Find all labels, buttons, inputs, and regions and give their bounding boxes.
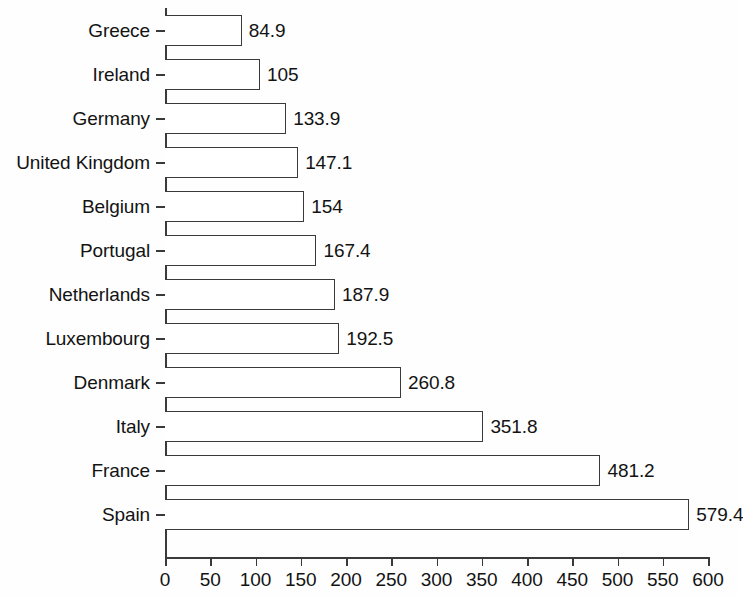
x-axis-tick bbox=[618, 557, 620, 566]
x-axis-tick-label: 150 bbox=[285, 570, 316, 589]
y-axis-tick bbox=[156, 250, 165, 252]
category-axis-labels: GreeceIrelandGermanyUnited KingdomBelgiu… bbox=[0, 0, 150, 598]
x-axis-tick bbox=[572, 557, 574, 566]
category-label: Denmark bbox=[74, 373, 150, 392]
category-label: Luxembourg bbox=[45, 329, 150, 348]
category-label: Greece bbox=[88, 21, 150, 40]
bar-value-label: 147.1 bbox=[305, 153, 352, 172]
y-axis-tick bbox=[156, 162, 165, 164]
bar-value-label: 481.2 bbox=[607, 461, 654, 480]
y-axis-tick bbox=[156, 206, 165, 208]
x-axis-tick-label: 300 bbox=[421, 570, 452, 589]
x-axis-tick bbox=[708, 557, 710, 566]
bar bbox=[165, 59, 260, 90]
x-axis-tick bbox=[437, 557, 439, 566]
bar bbox=[165, 411, 483, 442]
bar-value-label: 167.4 bbox=[323, 241, 370, 260]
x-axis-tick-label: 250 bbox=[376, 570, 407, 589]
category-label: Spain bbox=[102, 505, 150, 524]
x-axis-tick-label: 350 bbox=[466, 570, 497, 589]
bar bbox=[165, 15, 242, 46]
y-axis-tick bbox=[156, 382, 165, 384]
category-label: Netherlands bbox=[49, 285, 150, 304]
bar bbox=[165, 323, 339, 354]
x-axis-tick-label: 100 bbox=[240, 570, 271, 589]
x-axis-tick bbox=[256, 557, 258, 566]
bar-value-label: 133.9 bbox=[293, 109, 340, 128]
y-axis-tick bbox=[156, 294, 165, 296]
x-axis-tick-label: 500 bbox=[602, 570, 633, 589]
bar bbox=[165, 367, 401, 398]
x-axis-tick-label: 450 bbox=[557, 570, 588, 589]
x-axis-tick-label: 550 bbox=[647, 570, 678, 589]
y-axis-tick bbox=[156, 118, 165, 120]
y-axis-tick bbox=[156, 74, 165, 76]
bar bbox=[165, 499, 689, 530]
x-axis-tick bbox=[210, 557, 212, 566]
x-axis-tick bbox=[391, 557, 393, 566]
category-label: Belgium bbox=[82, 197, 150, 216]
bar bbox=[165, 103, 286, 134]
x-axis-tick-label: 400 bbox=[511, 570, 542, 589]
bar-value-label: 579.4 bbox=[696, 505, 743, 524]
bar-value-label: 192.5 bbox=[346, 329, 393, 348]
bar bbox=[165, 235, 316, 266]
plot-area: 84.9105133.9147.1154167.4187.9192.5260.8… bbox=[165, 0, 738, 598]
y-axis-tick bbox=[156, 30, 165, 32]
x-axis-tick-label: 600 bbox=[692, 570, 723, 589]
bar-value-label: 351.8 bbox=[490, 417, 537, 436]
bar bbox=[165, 279, 335, 310]
category-label: Portugal bbox=[80, 241, 150, 260]
category-label: Germany bbox=[73, 109, 150, 128]
y-axis-tick bbox=[156, 514, 165, 516]
x-axis-tick bbox=[663, 557, 665, 566]
bar bbox=[165, 147, 298, 178]
bar bbox=[165, 191, 304, 222]
y-axis-tick bbox=[156, 426, 165, 428]
y-axis-tick bbox=[156, 470, 165, 472]
category-label: France bbox=[91, 461, 150, 480]
x-axis-tick-label: 200 bbox=[330, 570, 361, 589]
x-axis-tick bbox=[482, 557, 484, 566]
bar-value-label: 105 bbox=[267, 65, 298, 84]
x-axis-tick bbox=[301, 557, 303, 566]
category-label: United Kingdom bbox=[16, 153, 150, 172]
y-axis-tick bbox=[156, 338, 165, 340]
x-axis-tick-label: 50 bbox=[200, 570, 221, 589]
x-axis-tick bbox=[346, 557, 348, 566]
bar-value-label: 154 bbox=[311, 197, 342, 216]
x-axis-tick bbox=[527, 557, 529, 566]
bar-value-label: 260.8 bbox=[408, 373, 455, 392]
x-axis-tick bbox=[165, 557, 167, 566]
bar bbox=[165, 455, 600, 486]
category-label: Ireland bbox=[93, 65, 150, 84]
x-axis-tick-label: 0 bbox=[160, 570, 170, 589]
category-label: Italy bbox=[116, 417, 150, 436]
bar-value-label: 187.9 bbox=[342, 285, 389, 304]
bar-value-label: 84.9 bbox=[249, 21, 286, 40]
